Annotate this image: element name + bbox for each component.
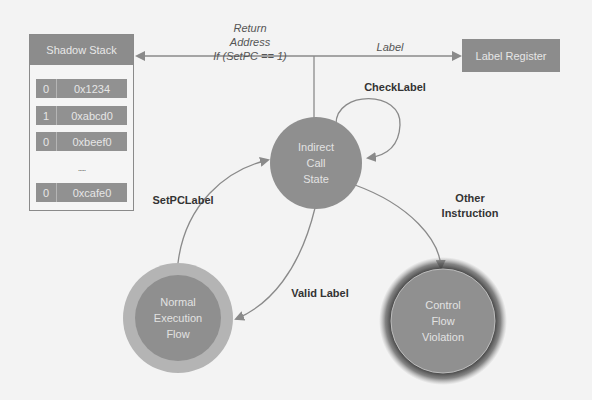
set-pc-label-edge: [178, 160, 268, 263]
return-address-condition: If (SetPC == 1): [200, 49, 300, 63]
set-pc-label-label: SetPCLabel: [143, 193, 223, 208]
indirect-call-state-text: Indirect Call State: [276, 138, 356, 188]
entry-address: 0xbeef0: [57, 136, 127, 148]
other-instruction-edge: [355, 185, 441, 268]
shadow-stack-entry: 0 0x1234: [36, 79, 127, 98]
control-flow-violation-line3: Violation: [422, 329, 464, 345]
label-edge-label: Label: [360, 40, 420, 54]
entry-bit: 0: [36, 183, 57, 202]
other-instruction-label-line1: Other: [430, 191, 510, 206]
indirect-call-state-line2: Call: [307, 155, 326, 171]
indirect-call-state-line1: Indirect: [298, 139, 334, 155]
shadow-stack-ellipsis: .....: [30, 163, 133, 173]
indirect-call-state-line3: State: [303, 171, 329, 187]
normal-execution-flow-line2: Execution: [154, 310, 202, 326]
valid-label-edge: [236, 208, 315, 319]
return-address-label-line2: Address: [200, 35, 300, 49]
control-flow-violation-text: Control Flow Violation: [403, 296, 483, 346]
check-label-label: CheckLabel: [360, 80, 430, 95]
valid-label-label: Valid Label: [280, 286, 360, 301]
shadow-stack-title: Shadow Stack: [30, 35, 133, 65]
shadow-stack: Shadow Stack 0 0x1234 1 0xabcd0 0 0xbeef…: [29, 34, 134, 211]
shadow-stack-entry: 0 0xcafe0: [36, 183, 127, 202]
shadow-stack-entry: 0 0xbeef0: [36, 132, 127, 151]
entry-bit: 1: [36, 106, 57, 125]
shadow-stack-entry: 1 0xabcd0: [36, 106, 127, 125]
entry-bit: 0: [36, 132, 57, 151]
entry-address: 0xcafe0: [57, 187, 127, 199]
return-address-label: Return Address If (SetPC == 1): [200, 21, 300, 63]
other-instruction-label: Other Instruction: [430, 191, 510, 221]
entry-address: 0x1234: [57, 83, 127, 95]
control-flow-violation-line1: Control: [425, 297, 460, 313]
return-address-label-line1: Return: [200, 21, 300, 35]
other-instruction-label-line2: Instruction: [430, 206, 510, 221]
normal-execution-flow-line3: Flow: [166, 326, 189, 342]
normal-execution-flow-text: Normal Execution Flow: [138, 293, 218, 343]
entry-bit: 0: [36, 79, 57, 98]
normal-execution-flow-line1: Normal: [160, 294, 195, 310]
control-flow-violation-line2: Flow: [431, 313, 454, 329]
label-register: Label Register: [462, 39, 560, 72]
entry-address: 0xabcd0: [57, 110, 127, 122]
